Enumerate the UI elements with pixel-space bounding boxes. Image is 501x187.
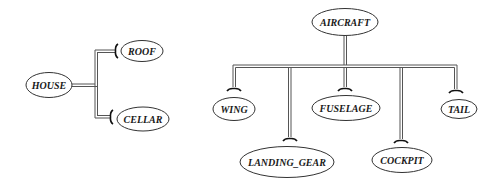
node-label-aircraft: AIRCRAFT [319,17,371,28]
node-roof: ROOF [121,41,163,62]
cockpit-aggregation-cup [394,140,408,143]
node-cockpit: COCKPIT [372,148,432,173]
node-landing-gear: LANDING_GEAR [240,147,334,178]
node-label-cockpit: COCKPIT [380,155,424,166]
wing-aggregation-cup [227,88,241,91]
node-label-tail: TAIL [448,104,470,115]
node-label-wing: WING [220,104,248,115]
node-label-cellar: CELLAR [124,114,163,125]
aggregation-diagram: HOUSE ROOF CELLAR AIRCRAFT WING LANDING_… [0,0,501,187]
node-wing: WING [213,98,255,121]
node-fuselage: FUSELAGE [312,96,380,121]
node-label-house: HOUSE [31,80,67,91]
node-cellar: CELLAR [117,107,169,131]
cellar-aggregation-cup [110,110,113,124]
aircraft-connectors [227,36,463,144]
roof-aggregation-cup [115,44,118,58]
node-house: HOUSE [26,73,72,98]
house-connectors [72,44,118,124]
node-tail: TAIL [441,100,477,119]
node-label-landing-gear: LANDING_GEAR [247,157,326,168]
node-aircraft: AIRCRAFT [312,9,378,36]
tail-aggregation-cup [449,90,463,93]
node-label-fuselage: FUSELAGE [319,103,373,114]
landing-gear-aggregation-cup [283,138,297,141]
fuselage-aggregation-cup [338,88,352,91]
node-label-roof: ROOF [127,46,156,57]
